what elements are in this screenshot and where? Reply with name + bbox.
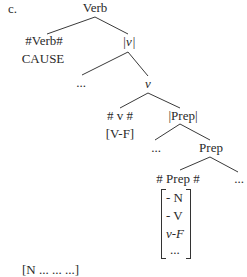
node-v-bar: |v| [123, 35, 136, 49]
node-prep-bar: |Prep| [168, 109, 197, 123]
node-prep-bar-left-ellipsis: ... [151, 141, 161, 155]
node-prep-head: # Prep # [156, 172, 199, 186]
node-v: v [145, 77, 151, 91]
example-label: c. [8, 2, 17, 16]
feature-minus-v: - V [166, 209, 183, 223]
feature-v-f: v-F [166, 227, 184, 241]
node-prep-right-ellipsis: ... [234, 172, 244, 186]
cutoff-caption: [N ... ... ...] [22, 263, 79, 277]
feature-ellipsis: ... [170, 243, 180, 257]
node-v-bar-left-ellipsis: ... [76, 76, 86, 90]
node-verb-root: Verb [83, 1, 108, 15]
node-prep: Prep [199, 141, 223, 155]
node-v-feature: [V-F] [106, 127, 134, 141]
node-verb-feature: CAUSE [22, 52, 65, 66]
node-verb-head: #Verb# [25, 34, 63, 48]
prep-feature-matrix: - N - V v-F ... [161, 189, 191, 259]
node-v-head: # v # [107, 109, 133, 123]
feature-minus-n: - N [166, 191, 183, 205]
